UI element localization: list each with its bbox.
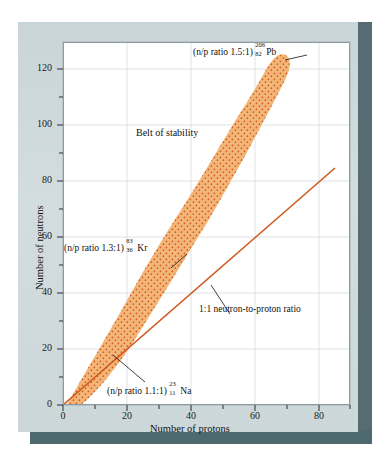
annotation-na: (n/p ratio 1.1:1) 23 11 Na	[107, 387, 191, 397]
annotation-na-mass-number: 23	[169, 381, 176, 388]
x-axis-title: Number of protons	[150, 423, 230, 434]
annotation-pb-atomic-number: 82	[255, 51, 262, 58]
chart-svg	[63, 42, 350, 405]
leader-line-na	[113, 355, 145, 382]
annotation-na-symbol: Na	[180, 386, 191, 396]
annotation-pb-symbol: Pb	[266, 47, 276, 57]
annotation-pb-prefix: (n/p ratio 1.5:1)	[193, 47, 253, 57]
x-tick-label-60: 60	[245, 410, 265, 421]
annotation-kr: (n/p ratio 1.3:1) 83 36 Kr	[64, 244, 147, 254]
x-tick-label-20: 20	[117, 410, 137, 421]
annotation-na-prefix: (n/p ratio 1.1:1)	[107, 386, 167, 396]
y-tick-label-40: 40	[28, 286, 52, 297]
y-axis-title: Number of neutrons	[34, 205, 45, 290]
annotation-belt-label: Belt of stability	[136, 127, 198, 138]
annotation-na-isotope: 23 11 Na	[169, 387, 191, 397]
y-tick-label-80: 80	[28, 174, 52, 185]
annotation-ratio-label: 1:1 neutron-to-proton ratio	[199, 304, 301, 314]
annotation-belt-of-stability: Belt of stability	[136, 128, 198, 138]
y-tick-label-0: 0	[28, 398, 52, 409]
annotation-pb-mass-number: 206	[255, 42, 265, 49]
belt-of-stability-band	[67, 54, 290, 405]
annotation-kr-prefix: (n/p ratio 1.3:1)	[64, 243, 124, 253]
y-tick-label-100: 100	[24, 118, 52, 129]
x-tick-label-80: 80	[309, 410, 329, 421]
x-tick-label-40: 40	[181, 410, 201, 421]
annotation-kr-isotope: 83 36 Kr	[126, 244, 147, 254]
annotation-na-atomic-number: 11	[169, 390, 175, 397]
leader-line-pb	[285, 55, 307, 60]
annotation-kr-mass-number: 83	[126, 238, 133, 245]
y-tick-label-120: 120	[24, 62, 52, 73]
figure-container: Number of neutrons 0 20 40 60 80 100 120…	[0, 0, 386, 469]
x-tick-label-0: 0	[53, 410, 73, 421]
plot-area	[63, 42, 350, 405]
annotation-pb: (n/p ratio 1.5:1) 206 82 Pb	[193, 48, 276, 58]
y-tick-label-60: 60	[28, 230, 52, 241]
annotation-kr-atomic-number: 36	[126, 247, 133, 254]
annotation-pb-isotope: 206 82 Pb	[255, 48, 276, 58]
annotation-one-to-one-ratio: 1:1 neutron-to-proton ratio	[199, 305, 301, 315]
y-tick-label-20: 20	[28, 342, 52, 353]
annotation-kr-symbol: Kr	[137, 243, 147, 253]
